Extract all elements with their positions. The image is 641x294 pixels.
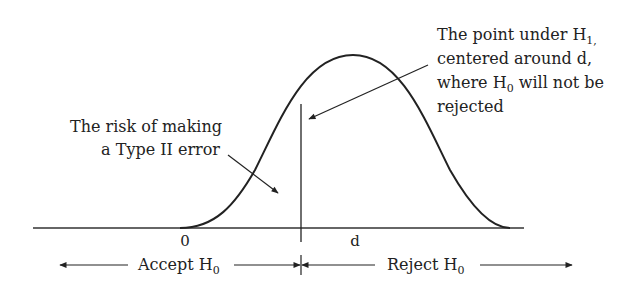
point-under-h1-arrow xyxy=(309,65,428,119)
reject-h0-label: Reject H0 xyxy=(387,255,464,277)
right-label-line3: where H0 will not be xyxy=(437,73,604,95)
type-ii-arrow xyxy=(228,155,278,193)
right-label-line1: The point under H1, xyxy=(437,25,597,47)
d-tick-label: d xyxy=(350,232,360,250)
type-ii-error-diagram: The risk of making a Type II error The p… xyxy=(0,0,641,294)
zero-tick-label: 0 xyxy=(180,232,190,250)
type-ii-label-line1: The risk of making xyxy=(70,117,222,136)
right-label-line2: centered around d, xyxy=(437,49,592,68)
accept-h0-label: Accept H0 xyxy=(137,255,220,277)
right-label-line4: rejected xyxy=(437,97,504,116)
type-ii-label-line2: a Type II error xyxy=(101,140,220,159)
